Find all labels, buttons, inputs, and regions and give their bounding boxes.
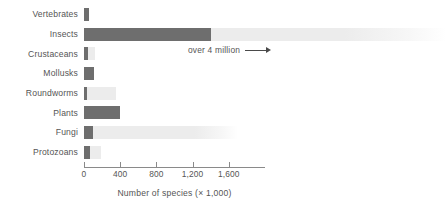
- annotation-over-4-million: over 4 million: [188, 45, 240, 55]
- bar-described: [84, 47, 88, 60]
- bar-described: [84, 87, 87, 100]
- category-label-vertebrates: Vertebrates: [0, 9, 78, 19]
- x-axis-tick: [193, 162, 194, 167]
- bar-estimated: [84, 126, 238, 139]
- x-axis-tick-label: 800: [149, 169, 163, 179]
- x-axis-tick: [229, 162, 230, 167]
- category-label-fungi: Fungi: [0, 127, 78, 137]
- category-axis-labels: Vertebrates Insects Crustaceans Mollusks…: [0, 8, 78, 165]
- annotation-arrow-head-icon: [266, 47, 271, 53]
- x-axis-tick-label: 1,200: [182, 169, 203, 179]
- bar-described: [84, 126, 93, 139]
- category-label-mollusks: Mollusks: [0, 68, 78, 78]
- bar-estimated: [84, 87, 116, 100]
- category-label-crustaceans: Crustaceans: [0, 49, 78, 59]
- x-axis-tick: [84, 162, 85, 167]
- x-axis-tick: [120, 162, 121, 167]
- x-axis-title: Number of species (× 1,000): [84, 188, 265, 198]
- bar-described: [84, 8, 89, 21]
- category-label-protozoans: Protozoans: [0, 147, 78, 157]
- category-label-plants: Plants: [0, 108, 78, 118]
- category-label-insects: Insects: [0, 29, 78, 39]
- category-label-roundworms: Roundworms: [0, 88, 78, 98]
- x-axis-tick-label: 400: [113, 169, 127, 179]
- bar-described: [84, 28, 211, 41]
- x-axis-tick: [156, 162, 157, 167]
- annotation-arrow-line: [245, 50, 267, 51]
- bar-described: [84, 106, 120, 119]
- x-axis-line: [84, 167, 265, 168]
- plot-area: [84, 8, 410, 165]
- x-axis-tick-label: 0: [82, 169, 87, 179]
- bar-described: [84, 67, 94, 80]
- x-axis-tick-label: 1,600: [218, 169, 239, 179]
- bar-described: [84, 146, 90, 159]
